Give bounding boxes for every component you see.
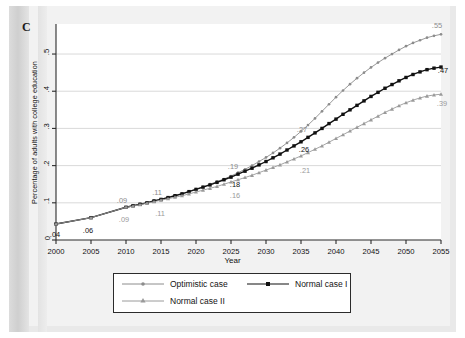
data-point-label: .11 [152,188,162,197]
x-tick-label: 2040 [328,247,345,256]
data-point-label: .09 [119,215,129,224]
x-tick-label: 2055 [433,247,450,256]
data-point-label: .55 [432,21,442,30]
data-point-label: .21 [300,166,310,175]
legend-item-normal-case-i[interactable]: Normal case I [245,279,347,289]
chart-legend: Optimistic case Normal case I Normal cas… [113,273,351,313]
legend-label-normal-case-ii: Normal case II [170,296,225,306]
legend-symbol-normal-case-i [245,279,291,289]
data-point-label: .26 [299,145,309,154]
data-point-label: .11 [155,209,165,218]
legend-item-normal-case-ii[interactable]: Normal case II [120,296,225,306]
figure-panel: C Percentage of adults with college educ… [0,0,465,338]
y-tick-label: .1 [43,198,52,204]
y-tick-label: .2 [43,160,52,166]
legend-label-normal-case-i: Normal case I [295,279,347,289]
x-tick-label: 2045 [363,247,380,256]
data-point-label: .06 [83,226,93,235]
x-tick-label: 2015 [153,247,170,256]
legend-item-optimistic-case[interactable]: Optimistic case [120,279,228,289]
data-point-label: .19 [228,162,238,171]
x-tick-label: 2005 [83,247,100,256]
data-point-label: .09 [117,196,127,205]
x-tick-label: 2000 [48,247,65,256]
data-point-label: .47 [438,66,448,75]
x-axis-title: Year [0,256,465,265]
legend-label-optimistic-case: Optimistic case [170,279,228,289]
x-tick-label: 2020 [188,247,205,256]
x-tick-label: 2030 [258,247,275,256]
x-tick-label: 2050 [398,247,415,256]
data-point-label: .39 [437,99,447,108]
x-tick-label: 2025 [223,247,240,256]
y-tick-label: .5 [43,49,52,55]
legend-symbol-optimistic-case [120,279,166,289]
x-tick-label: 2035 [293,247,310,256]
y-tick-label: .4 [43,86,52,92]
data-point-label: .04 [50,230,60,239]
data-point-label: .18 [230,180,240,189]
data-point-label: .27 [297,125,307,134]
x-tick-label: 2010 [118,247,135,256]
data-point-label: .16 [230,191,240,200]
y-tick-label: .3 [43,123,52,129]
legend-symbol-normal-case-ii [120,296,166,306]
